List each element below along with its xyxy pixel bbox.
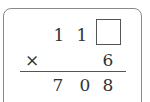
multiply-operator: × [25, 52, 39, 69]
product-digit-hundreds: 7 [51, 77, 65, 94]
answer-blank-box[interactable] [96, 19, 121, 45]
multiplicand-digit-tens: 1 [75, 27, 89, 44]
product-digit-tens: 0 [78, 77, 92, 94]
product-digit-ones: 8 [101, 77, 115, 94]
multiplier-digit: 6 [101, 52, 115, 69]
result-divider-line [20, 71, 126, 72]
problem-frame [3, 8, 142, 102]
multiplicand-digit-hundreds: 1 [52, 27, 66, 44]
